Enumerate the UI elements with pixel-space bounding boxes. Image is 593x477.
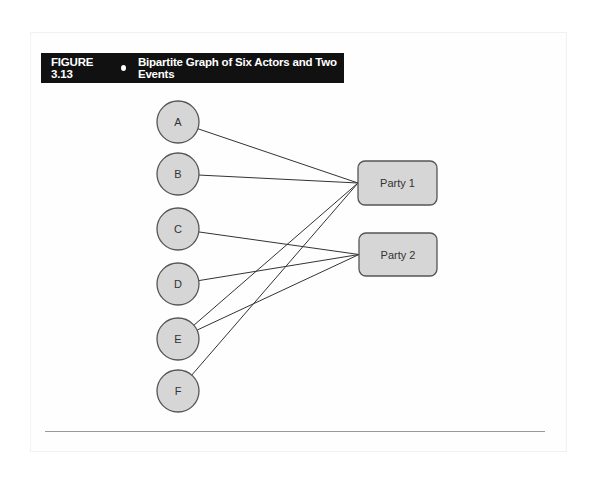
bipartite-graph: ABCDEF Party 1Party 2 [0,0,593,477]
event-label: Party 2 [381,249,416,261]
actor-node-c: C [157,208,199,250]
events-layer: Party 1Party 2 [358,161,437,276]
edge-e-party-2 [197,255,359,331]
actor-label: C [174,223,182,235]
edge-e-party-1 [194,183,358,325]
edge-a-party-1 [198,129,358,183]
bottom-rule [45,431,545,432]
actor-label: A [174,116,182,128]
actor-node-d: D [157,263,199,305]
actors-layer: ABCDEF [157,101,199,412]
event-node-party-1: Party 1 [358,161,437,205]
event-node-party-2: Party 2 [359,233,437,276]
event-label: Party 1 [380,177,415,189]
actor-label: E [174,333,181,345]
actor-label: F [175,385,182,397]
actor-node-b: B [157,153,199,195]
edges-layer [192,129,359,375]
edge-b-party-1 [199,175,358,183]
edge-d-party-2 [199,255,359,281]
edge-f-party-1 [192,183,358,375]
actor-label: B [174,168,181,180]
actor-label: D [174,278,182,290]
actor-node-f: F [157,370,199,412]
actor-node-e: E [157,318,199,360]
actor-node-a: A [157,101,199,143]
